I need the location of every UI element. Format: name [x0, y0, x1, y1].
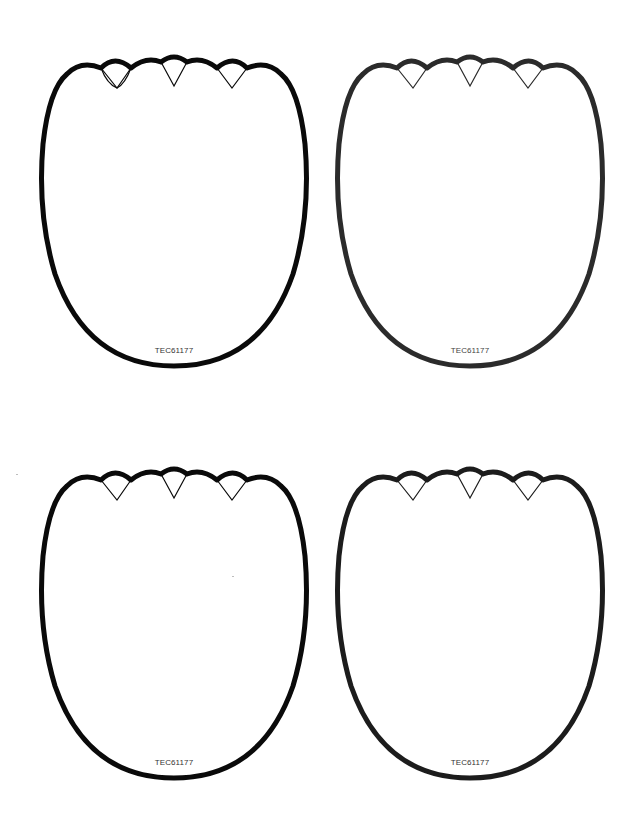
tulip-cutout-top-right: TEC61177: [333, 54, 607, 370]
scan-speck: [16, 474, 18, 475]
product-code: TEC61177: [333, 346, 607, 355]
tulip-outline-icon: [333, 466, 607, 782]
tulip-outline-icon: [333, 54, 607, 370]
product-code: TEC61177: [333, 758, 607, 767]
tulip-outline-icon: [37, 54, 311, 370]
tulip-cutout-top-left: TEC61177: [37, 54, 311, 370]
product-code: TEC61177: [37, 758, 311, 767]
scan-speck: [232, 576, 234, 577]
tulip-cutout-bottom-left: TEC61177: [37, 466, 311, 782]
tulip-cutout-bottom-right: TEC61177: [333, 466, 607, 782]
product-code: TEC61177: [37, 346, 311, 355]
tulip-outline-icon: [37, 466, 311, 782]
